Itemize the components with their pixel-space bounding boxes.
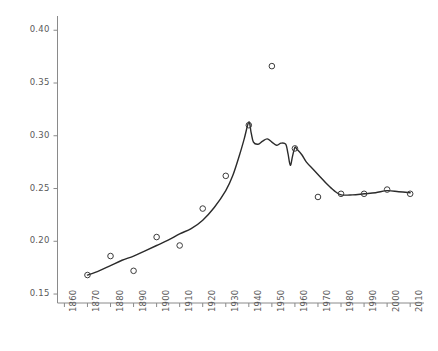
data-point-marker: [131, 268, 137, 274]
axis-lines: [58, 16, 425, 303]
data-point-marker: [108, 253, 114, 259]
y-tick-label: 0.15: [10, 288, 50, 298]
y-axis-ticks: [54, 30, 58, 294]
data-point-marker: [315, 194, 321, 200]
data-point-marker: [384, 187, 390, 193]
x-tick-label: 1970: [322, 290, 332, 312]
x-tick-label: 1990: [368, 290, 378, 312]
data-point-marker: [269, 63, 275, 69]
x-tick-label: 1920: [207, 290, 217, 312]
x-tick-label: 1880: [115, 290, 125, 312]
x-tick-label: 1980: [345, 290, 355, 312]
line-chart: 0.150.200.250.300.350.40 186018701880189…: [0, 0, 438, 351]
x-tick-label: 2000: [391, 290, 401, 312]
x-tick-label: 1870: [91, 290, 101, 312]
y-tick-label: 0.20: [10, 235, 50, 245]
data-point-marker: [200, 206, 206, 212]
data-point-marker: [154, 234, 160, 240]
x-tick-label: 1950: [276, 290, 286, 312]
data-point-marker: [407, 191, 413, 197]
x-tick-label: 1960: [299, 290, 309, 312]
x-tick-label: 1890: [138, 290, 148, 312]
data-line-smoothed: [87, 122, 410, 275]
data-point-marker: [223, 173, 229, 179]
data-point-marker: [177, 243, 183, 249]
y-tick-label: 0.40: [10, 24, 50, 34]
x-tick-label: 1900: [161, 290, 171, 312]
x-tick-label: 1910: [184, 290, 194, 312]
x-tick-label: 1930: [230, 290, 240, 312]
y-tick-label: 0.35: [10, 77, 50, 87]
x-tick-label: 1940: [253, 290, 263, 312]
y-tick-label: 0.25: [10, 183, 50, 193]
data-markers: [85, 63, 413, 278]
y-tick-label: 0.30: [10, 130, 50, 140]
x-tick-label: 1860: [68, 290, 78, 312]
smoothed-curve-path: [87, 122, 410, 275]
x-tick-label: 2010: [414, 290, 424, 312]
